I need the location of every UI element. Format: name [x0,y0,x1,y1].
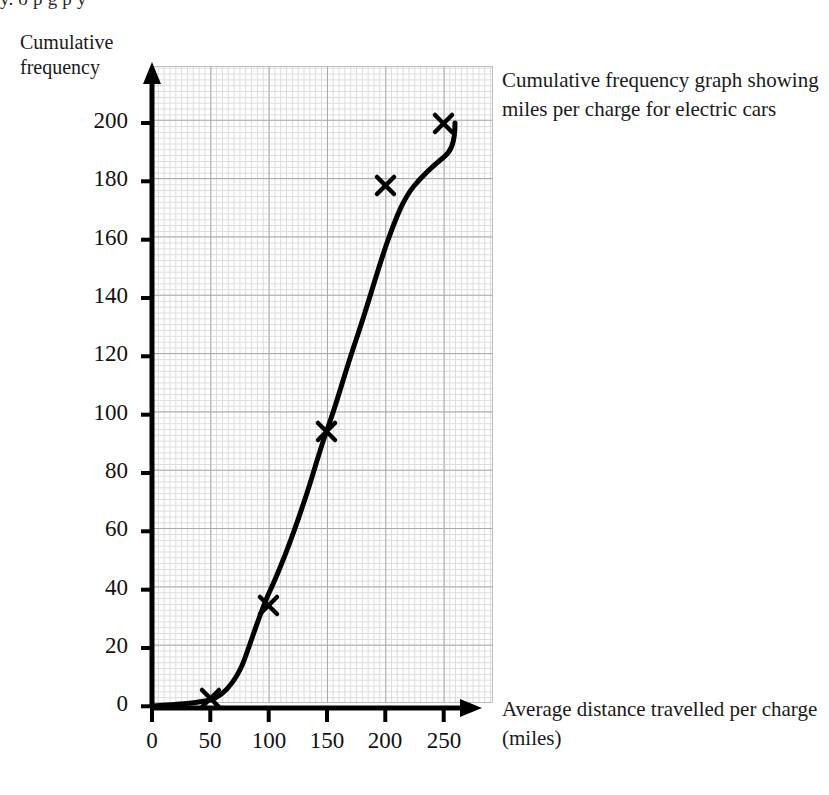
y-tick-label: 180 [68,166,128,192]
x-tick-label: 100 [239,728,299,754]
x-tick-label: 0 [122,728,182,754]
y-tick-label: 140 [68,283,128,309]
y-tick-label: 120 [68,341,128,367]
data-point-markers [202,115,452,707]
y-tick-label: 100 [68,400,128,426]
x-tick-label: 250 [414,728,474,754]
x-axis-title: Average distance travelled per charge (m… [502,695,827,753]
y-tick-label: 60 [68,516,128,542]
data-point-marker [435,115,452,132]
graph-caption: Cumulative frequency graph showing miles… [502,66,827,124]
data-point-marker [377,177,394,194]
y-axis [143,62,161,708]
y-tick-label: 80 [68,458,128,484]
y-tick-label: 20 [68,633,128,659]
x-tick-label: 50 [180,728,240,754]
x-tick-label: 150 [297,728,357,754]
cumulative-frequency-curve [152,123,455,706]
y-tick-label: 160 [68,225,128,251]
x-tick-label: 200 [355,728,415,754]
y-tick-label: 40 [68,575,128,601]
y-tick-label: 0 [68,691,128,717]
y-tick-label: 200 [68,108,128,134]
